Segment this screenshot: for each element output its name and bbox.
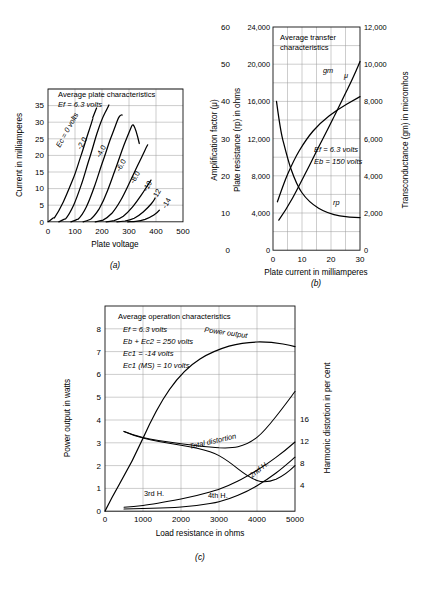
xtick-c-1000: 1000 (134, 515, 152, 524)
ytick-a-15: 15 (35, 168, 44, 177)
annotation-b-ef: Ef = 6.3 volts (314, 145, 358, 154)
xtick-c-0: 0 (103, 515, 108, 524)
panel-c-x-ticklabels: 0 1000 2000 3000 4000 5000 (103, 515, 305, 524)
caption-a: (a) (110, 260, 120, 270)
ytick-a-0: 0 (40, 218, 45, 227)
ytick-b-rp-12000: 12,000 (247, 135, 270, 144)
ytick-c-dist-4: 4 (300, 481, 305, 490)
xtick-a-100: 100 (68, 227, 82, 236)
xaxis-label-c: Load resistance in ohms (156, 529, 245, 538)
xtick-c-3000: 3000 (210, 515, 228, 524)
ytick-c-power-7: 7 (97, 348, 102, 357)
panel-c-power-ticklabels: 8 7 6 5 4 3 2 1 0 (97, 325, 102, 516)
curve-label-a-4: -4.0 (94, 143, 108, 159)
panel-a-y-ticklabels: 35 30 25 20 15 10 5 0 (35, 101, 44, 226)
ytick-c-power-6: 6 (97, 370, 102, 379)
curve-label-c-3rd-h: 3rd H. (144, 489, 164, 498)
ytick-a-30: 30 (35, 118, 44, 127)
annotation-c-ec1: Ec1 = -14 volts (123, 349, 174, 358)
panel-c-annotations: Average operation characteristics Ef = 6… (118, 312, 231, 370)
panel-a-curves (48, 105, 159, 222)
xtick-a-200: 200 (95, 227, 109, 236)
panel-b-rp-ticklabels: 24,000 20,000 16,000 12,000 8,000 4,000 … (247, 23, 270, 255)
xaxis-label-a: Plate voltage (91, 240, 139, 249)
ytick-a-5: 5 (40, 201, 45, 210)
xtick-c-5000: 5000 (286, 515, 304, 524)
ytick-b-rp-4000: 4,000 (252, 209, 271, 218)
ytick-b-mu-50: 50 (221, 60, 230, 69)
ytick-c-dist-8: 8 (300, 459, 305, 468)
ytick-c-power-3: 3 (97, 439, 102, 448)
panel-a-x-ticklabels: 0 100 200 300 400 500 (46, 227, 190, 236)
ytick-c-dist-12: 12 (300, 437, 309, 446)
ytick-b-gm-6000: 6,000 (364, 135, 383, 144)
ytick-b-rp-20000: 20,000 (247, 60, 270, 69)
annotation-b-title1: Average transfer (280, 33, 336, 42)
xtick-a-400: 400 (149, 227, 163, 236)
xtick-b-30: 30 (356, 255, 365, 264)
ytick-c-power-0: 0 (97, 507, 102, 516)
ytick-c-power-1: 1 (97, 484, 102, 493)
ytick-a-10: 10 (35, 184, 44, 193)
curve-label-a-14: -14 (160, 196, 173, 210)
ytick-b-mu-60: 60 (221, 23, 230, 32)
annotation-c-title: Average operation characteristics (118, 312, 231, 321)
ytick-b-rp-0: 0 (266, 246, 270, 255)
annotation-a-ef: Ef = 6.3 volts (58, 100, 102, 109)
curve-label-c-4th-h: 4th H. (208, 491, 228, 500)
annotation-c-ef: Ef = 6.3 volts (123, 325, 167, 334)
xtick-b-0: 0 (271, 255, 276, 264)
curve-label-c-power-output: Power output (204, 325, 249, 340)
yaxis-label-b-gm: Transconductance (gm) in micromhos (401, 71, 410, 208)
xtick-b-20: 20 (327, 255, 336, 264)
ytick-c-power-5: 5 (97, 393, 102, 402)
panel-a-plate-characteristics: 35 30 25 20 15 10 5 0 0 100 200 300 400 … (0, 0, 210, 290)
panel-c-dist-ticklabels: 16 12 8 4 (300, 415, 309, 490)
curve-label-b-mu: μ (343, 71, 348, 80)
annotation-c-ec1ms: Ec1 (MS) = 10 volts (123, 361, 190, 370)
ytick-b-gm-12000: 12,000 (364, 23, 387, 32)
ytick-b-mu-10: 10 (221, 209, 230, 218)
ytick-a-20: 20 (35, 151, 44, 160)
caption-b: (b) (311, 278, 321, 288)
xtick-a-0: 0 (46, 227, 51, 236)
yaxis-label-c-power: Power output in watts (63, 379, 72, 457)
ytick-b-gm-4000: 4,000 (364, 172, 383, 181)
ytick-b-gm-0: 0 (364, 246, 368, 255)
curve-label-a-12: -12 (150, 187, 163, 201)
ytick-c-power-8: 8 (97, 325, 102, 334)
yaxis-label-c-dist: Harmonic distortion in per cent (323, 362, 332, 474)
ytick-b-mu-0: 0 (226, 246, 231, 255)
xtick-c-4000: 4000 (248, 515, 266, 524)
ytick-b-rp-24000: 24,000 (247, 23, 270, 32)
ytick-b-gm-10000: 10,000 (364, 60, 387, 69)
xtick-c-2000: 2000 (172, 515, 190, 524)
ytick-b-mu-20: 20 (221, 172, 230, 181)
panel-b-transfer-characteristics: 60 50 40 30 20 10 0 24,000 20,000 16,000… (208, 0, 421, 290)
annotation-b-title2: characteristics (280, 43, 329, 52)
panel-b-curve-labels: gm μ rp (323, 66, 348, 207)
panel-b-curves (277, 62, 361, 221)
ytick-c-power-2: 2 (97, 462, 102, 471)
ytick-b-mu-40: 40 (221, 97, 230, 106)
xaxis-label-b: Plate current in milliamperes (264, 268, 367, 277)
yaxis-label-b-mu: Amplification factor (μ) (210, 99, 219, 181)
ytick-a-35: 35 (35, 101, 44, 110)
ytick-b-gm-2000: 2,000 (364, 209, 383, 218)
xtick-a-300: 300 (122, 227, 136, 236)
annotation-a-title: Average plate characteristics (58, 90, 156, 99)
ytick-b-gm-8000: 8,000 (364, 97, 383, 106)
ytick-c-power-4: 4 (97, 416, 102, 425)
panel-b-x-ticklabels: 0 10 20 30 (271, 255, 365, 264)
yaxis-label-a: Current in milliamperes (15, 113, 24, 197)
panel-b-gm-ticklabels: 12,000 10,000 8,000 6,000 4,000 2,000 0 (364, 23, 387, 255)
ytick-b-rp-8000: 8,000 (252, 172, 271, 181)
panel-c-operation-characteristics: 8 7 6 5 4 3 2 1 0 16 12 8 4 0 1000 2000 … (30, 288, 421, 598)
yaxis-label-b-rp: Plate resistance (rp) in ohms (233, 88, 242, 192)
curve-label-b-gm: gm (323, 66, 333, 75)
panel-b-mu-ticklabels: 60 50 40 30 20 10 0 (221, 23, 230, 255)
panel-a-curve-labels: Ec = 0 volts -2.0 -4.0 -6.0 -8.0 -10 -12… (54, 111, 173, 210)
xtick-b-10: 10 (298, 255, 307, 264)
curve-label-b-rp: rp (333, 198, 340, 207)
ytick-c-dist-16: 16 (300, 415, 309, 424)
